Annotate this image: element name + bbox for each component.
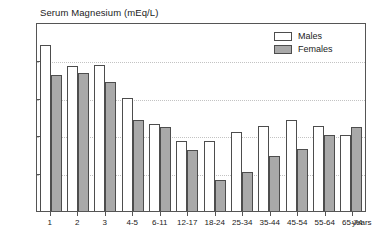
x-tick-mark (215, 212, 216, 216)
bar-males-1[interactable] (40, 45, 51, 211)
x-tick-mark (50, 212, 51, 216)
x-tick-label: 12-17 (177, 218, 197, 227)
chart-title: Serum Magnesium (mEq/L) (40, 7, 158, 18)
bar-females-2[interactable] (78, 73, 89, 211)
x-tick-label: 18-24 (205, 218, 225, 227)
bar-males-3[interactable] (94, 65, 105, 211)
bar-females-1[interactable] (51, 75, 62, 211)
x-tick-mark (242, 212, 243, 216)
bar-males-35-44[interactable] (258, 126, 269, 211)
x-tick-label: 25-34 (232, 218, 252, 227)
y-tick-mark (36, 99, 40, 100)
bar-group (146, 24, 173, 211)
y-tick-mark (36, 61, 40, 62)
x-tick-label: 2 (75, 218, 79, 227)
legend-swatch-females (274, 45, 292, 54)
x-tick-mark (132, 212, 133, 216)
x-tick-mark (325, 212, 326, 216)
x-tick-mark (297, 212, 298, 216)
legend-item-males[interactable]: Males (274, 31, 333, 41)
x-tick-label: 65-74 (342, 218, 362, 227)
bar-females-6-11[interactable] (160, 127, 171, 211)
bar-females-45-54[interactable] (297, 149, 308, 211)
bar-females-3[interactable] (105, 82, 116, 211)
bar-females-35-44[interactable] (269, 156, 280, 211)
bar-group (92, 24, 119, 211)
bar-males-25-34[interactable] (231, 132, 242, 211)
x-tick-label: 1 (48, 218, 52, 227)
bar-group (174, 24, 201, 211)
bar-group (37, 24, 64, 211)
x-tick-label: 3 (103, 218, 107, 227)
bar-males-65-74[interactable] (340, 135, 351, 211)
bar-females-12-17[interactable] (187, 150, 198, 211)
y-tick-mark (36, 136, 40, 137)
legend-item-females[interactable]: Females (274, 44, 333, 54)
bar-group (201, 24, 228, 211)
x-tick-label: 6-11 (152, 218, 167, 227)
x-tick-mark (187, 212, 188, 216)
bar-males-12-17[interactable] (176, 141, 187, 211)
x-tick-label: 45-54 (287, 218, 307, 227)
bar-males-2[interactable] (67, 66, 78, 211)
x-tick-mark (105, 212, 106, 216)
chart-legend: MalesFemales (274, 31, 333, 54)
x-tick-mark (270, 212, 271, 216)
legend-swatch-males (274, 32, 292, 41)
bar-females-4-5[interactable] (133, 120, 144, 211)
bar-females-18-24[interactable] (215, 180, 226, 211)
y-tick-mark (36, 174, 40, 175)
bar-males-6-11[interactable] (149, 124, 160, 211)
x-tick-label: 35-44 (260, 218, 280, 227)
bar-males-18-24[interactable] (204, 141, 215, 211)
x-tick-mark (77, 212, 78, 216)
bar-group (338, 24, 365, 211)
bar-group (228, 24, 255, 211)
bar-males-4-5[interactable] (122, 98, 133, 211)
bar-females-65-74[interactable] (351, 127, 362, 211)
bar-chart: Serum Magnesium (mEq/L) MalesFemales yea… (0, 0, 390, 250)
legend-label: Males (298, 31, 322, 41)
bar-females-25-34[interactable] (242, 172, 253, 211)
bar-males-55-64[interactable] (313, 126, 324, 211)
bar-group (64, 24, 91, 211)
bar-males-45-54[interactable] (286, 120, 297, 211)
x-tick-mark (160, 212, 161, 216)
bar-group (119, 24, 146, 211)
bar-females-55-64[interactable] (324, 135, 335, 211)
x-tick-label: 55-64 (315, 218, 335, 227)
x-tick-label: 4-5 (126, 218, 138, 227)
x-tick-mark (352, 212, 353, 216)
legend-label: Females (298, 44, 333, 54)
